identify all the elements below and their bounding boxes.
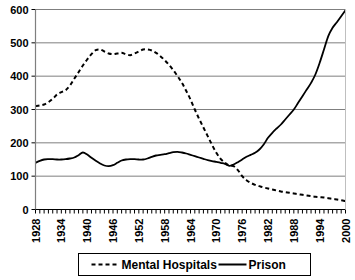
y-axis-tick-label: 0: [22, 204, 28, 216]
legend-label-prison: Prison: [249, 258, 286, 272]
y-axis-tick-label: 200: [10, 137, 28, 149]
y-axis-tick-label: 100: [10, 170, 28, 182]
x-axis-tick-label: 1952: [133, 219, 145, 243]
y-axis-labels: 0100200300400500600: [10, 4, 28, 216]
chart-container: 0100200300400500600 19281934194019461952…: [0, 0, 355, 280]
x-axis-tick-label: 2000: [340, 219, 352, 243]
x-axis-tick-label: 1964: [185, 218, 197, 243]
series-line-mental-hospitals: [36, 49, 346, 201]
line-chart: 0100200300400500600 19281934194019461952…: [0, 0, 355, 280]
x-axis-tick-label: 1928: [30, 219, 42, 243]
y-axis-tick-label: 600: [10, 4, 28, 16]
x-axis-tick-label: 1958: [159, 219, 171, 243]
x-axis-tick-label: 1970: [210, 219, 222, 243]
x-axis-ticks: [36, 210, 346, 214]
x-axis-tick-label: 1982: [262, 219, 274, 243]
x-axis-tick-label: 1940: [81, 219, 93, 243]
data-series: [36, 10, 346, 201]
x-axis-tick-label: 1988: [288, 219, 300, 243]
x-axis-tick-label: 1934: [55, 218, 67, 243]
y-axis-tick-label: 500: [10, 37, 28, 49]
y-axis-tick-label: 400: [10, 70, 28, 82]
y-axis-tick-label: 300: [10, 104, 28, 116]
legend-label-mental-hospitals: Mental Hospitals: [122, 258, 218, 272]
gridlines: [36, 10, 346, 177]
x-axis-tick-label: 1994: [314, 218, 326, 243]
x-axis-tick-label: 1946: [107, 219, 119, 243]
x-axis-labels: 1928193419401946195219581964197019761982…: [30, 218, 352, 243]
x-axis-tick-label: 1976: [236, 219, 248, 243]
chart-legend: Mental HospitalsPrison: [79, 254, 311, 276]
